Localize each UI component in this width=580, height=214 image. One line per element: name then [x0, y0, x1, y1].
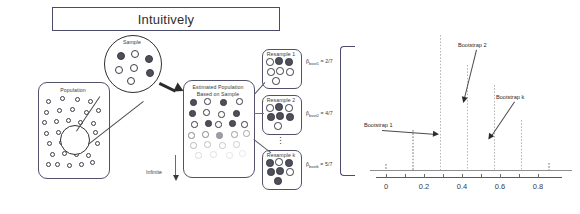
- x-axis-tick-label: 0.8: [533, 182, 543, 191]
- data-point-dark: [274, 177, 282, 185]
- connector-to-resample-k: [253, 139, 271, 153]
- data-point-dark: [275, 103, 283, 111]
- data-point-light: [96, 108, 101, 113]
- data-point-light: [267, 68, 275, 76]
- data-point-light: [275, 158, 283, 166]
- histogram-bar: [521, 120, 523, 170]
- data-point-dark: [233, 110, 240, 117]
- data-point-light: [219, 142, 226, 149]
- data-point-dark: [205, 120, 212, 127]
- connector-to-resample-2: [254, 113, 264, 114]
- data-point-light: [88, 99, 93, 104]
- infinite-arrow-shaft: [175, 155, 176, 177]
- data-point-light: [218, 111, 225, 118]
- population-sample-region: [60, 125, 90, 155]
- x-axis-minor-tick: [405, 174, 406, 177]
- data-point-dark: [285, 58, 293, 66]
- data-point-light: [233, 141, 240, 148]
- stat-boot1-sub: boot1: [309, 62, 319, 66]
- data-point-dark: [266, 159, 274, 167]
- resample-box-1-label: Resample 1: [267, 51, 296, 57]
- data-point-light: [95, 141, 100, 146]
- x-axis-tick-label: 0.2: [419, 182, 429, 191]
- data-point-light: [210, 151, 217, 158]
- title-box: Intuitively: [52, 7, 280, 31]
- population-label: Population: [60, 87, 86, 93]
- data-point-dark: [146, 69, 154, 77]
- right-brace: [340, 46, 355, 176]
- x-axis-tick: [386, 174, 387, 178]
- data-point-dark: [220, 99, 227, 106]
- data-point-light: [231, 131, 238, 138]
- data-point-light: [79, 162, 84, 167]
- stat-bootk-value: = 5/7: [320, 161, 332, 167]
- data-point-dark: [286, 113, 294, 121]
- data-point-light: [131, 50, 139, 58]
- x-axis-line: [376, 177, 562, 178]
- stat-boot1-value: = 2/7: [321, 58, 333, 64]
- diagram-canvas: Intuitively Population Sample Estimated …: [0, 0, 580, 214]
- data-point-light: [50, 152, 55, 157]
- data-point-light: [130, 64, 138, 72]
- data-point-light: [57, 108, 62, 113]
- data-point-dark: [189, 110, 196, 117]
- x-axis-tick: [538, 174, 539, 178]
- x-axis-tick-label: 0.4: [457, 182, 467, 191]
- estimated-population-label-line1: Estimated Population: [192, 84, 243, 90]
- data-point-light: [239, 150, 246, 157]
- data-point-light: [66, 118, 71, 123]
- data-point-light: [44, 110, 49, 115]
- stat-boot2: p̂boot2 = 4/7: [306, 110, 333, 118]
- sample-label: Sample: [123, 39, 141, 45]
- chart-annotation-arrowhead: [460, 96, 467, 103]
- data-point-dark: [276, 167, 284, 175]
- x-axis-tick-label: 0: [384, 182, 388, 191]
- x-axis-tick: [424, 174, 425, 178]
- data-point-light: [285, 104, 293, 112]
- x-axis-tick: [500, 174, 501, 178]
- data-point-light: [90, 160, 95, 165]
- stat-boot2-value: = 4/7: [321, 110, 333, 116]
- data-point-dark: [267, 113, 275, 121]
- stat-boot1: p̂boot1 = 2/7: [306, 58, 333, 66]
- data-point-light: [60, 96, 65, 101]
- chart-annotation-arrowhead: [433, 131, 439, 137]
- data-point-light: [215, 121, 222, 128]
- data-point-light: [70, 107, 75, 112]
- connector-to-resample-1: [254, 82, 265, 95]
- data-point-light: [204, 98, 211, 105]
- data-point-dark: [285, 159, 293, 167]
- data-point-light: [266, 104, 274, 112]
- chart-annotation-label: Bootstrap k: [496, 94, 524, 100]
- data-point-light: [195, 152, 202, 159]
- data-point-light: [203, 109, 210, 116]
- resample-ellipsis: ⋮: [276, 136, 285, 146]
- data-point-light: [266, 58, 274, 66]
- data-point-light: [54, 119, 59, 124]
- x-axis-minor-tick: [481, 174, 482, 177]
- x-axis-tick-label: 0.6: [495, 182, 505, 191]
- histogram-bar: [412, 130, 414, 170]
- chart-annotation-label: Bootstrap 2: [458, 42, 487, 48]
- data-point-light: [86, 153, 91, 158]
- data-point-dark: [117, 52, 125, 60]
- data-point-light: [241, 121, 248, 128]
- data-point-light: [286, 68, 294, 76]
- data-point-light: [93, 130, 98, 135]
- data-point-dark: [276, 112, 284, 120]
- data-point-dark: [229, 120, 236, 127]
- data-point-dark: [275, 57, 283, 65]
- data-point-light: [274, 122, 282, 130]
- chart-annotation-label: Bootstrap 1: [364, 122, 393, 128]
- data-point-light: [276, 67, 284, 75]
- data-point-light: [115, 66, 123, 74]
- data-point-light: [204, 141, 211, 148]
- bootstrap-histogram: 00.20.40.60.8 Bootstrap 1Bootstrap 2Boot…: [362, 18, 578, 208]
- data-point-light: [272, 77, 280, 85]
- histogram-bar: [548, 163, 550, 170]
- data-point-light: [202, 131, 209, 138]
- infinite-label: Infinite: [146, 169, 162, 175]
- data-point-light: [236, 98, 243, 105]
- data-point-light: [190, 142, 197, 149]
- stat-bootk: p̂bootk = 5/7: [306, 161, 333, 169]
